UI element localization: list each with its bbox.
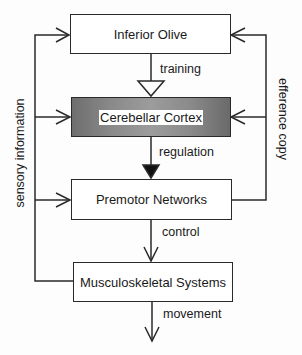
node-inferior-olive: Inferior Olive	[70, 14, 231, 54]
edge-label-training: training	[160, 62, 201, 76]
node-label: Musculoskeletal Systems	[80, 275, 226, 290]
cerebellar-control-diagram: Inferior Olive Cerebellar Cortex Premoto…	[0, 0, 302, 355]
node-premotor-networks: Premotor Networks	[71, 179, 232, 220]
edge-label-movement: movement	[163, 307, 221, 321]
edge-label-sensory-information: sensory information	[13, 93, 27, 213]
node-label: Premotor Networks	[96, 192, 207, 207]
node-label: Cerebellar Cortex	[99, 110, 203, 125]
node-cerebellar-cortex: Cerebellar Cortex	[71, 97, 231, 137]
sensory-information-line	[35, 35, 73, 281]
edge-label-control: control	[162, 225, 200, 239]
edge-label-efference-copy: efference copy	[276, 69, 290, 169]
filled-triangle-arrow-icon	[143, 165, 159, 178]
node-label: Inferior Olive	[114, 27, 188, 42]
edge-label-regulation: regulation	[159, 145, 214, 159]
node-musculoskeletal-systems: Musculoskeletal Systems	[73, 262, 233, 302]
open-triangle-arrow-icon	[138, 81, 164, 96]
